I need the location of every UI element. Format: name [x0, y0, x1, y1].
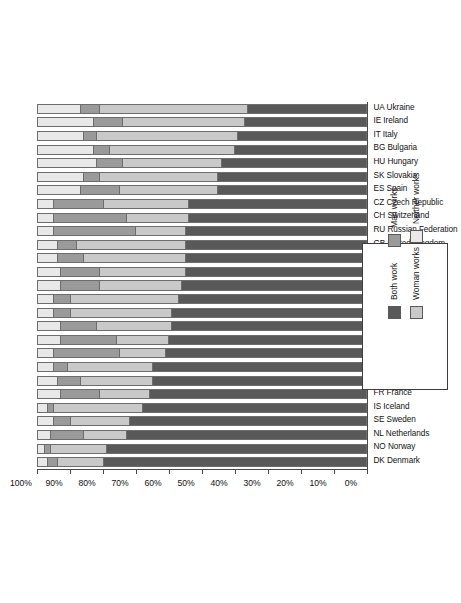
segment-woman: [97, 132, 238, 140]
segment-woman: [136, 227, 185, 235]
segment-neither: [38, 159, 97, 167]
segment-both: [153, 363, 366, 371]
bar-ru: [37, 226, 367, 236]
legend-item-man-works: Man works: [388, 187, 401, 247]
segment-both: [189, 200, 366, 208]
segment-man: [54, 214, 126, 222]
segment-man: [58, 254, 84, 262]
segment-both: [179, 295, 366, 303]
category-label: IT Italy: [374, 129, 398, 138]
segment-man: [58, 377, 81, 385]
bar-il: [37, 267, 367, 277]
segment-neither: [38, 363, 54, 371]
segment-both: [143, 404, 366, 412]
segment-both: [186, 268, 366, 276]
bar-ie: [37, 117, 367, 127]
chart-legend: Both work Man works Woman works Neither …: [362, 243, 448, 390]
segment-neither: [38, 254, 58, 262]
segment-both: [150, 390, 366, 398]
segment-neither: [38, 227, 54, 235]
legend-label-both-work: Both work: [389, 263, 399, 300]
axis-tick: [235, 469, 236, 474]
bar-be: [37, 376, 367, 386]
segment-both: [218, 173, 366, 181]
segment-woman: [84, 431, 127, 439]
axis-tick: [169, 469, 170, 474]
bar-dk: [37, 457, 367, 467]
axis-tick-label: 50%: [171, 478, 201, 488]
segment-neither: [38, 431, 51, 439]
segment-man: [54, 417, 70, 425]
category-label: IS Iceland: [374, 401, 410, 410]
segment-both: [222, 159, 366, 167]
legend-row: Both work Man works: [388, 192, 401, 319]
legend-swatch-woman-works: [410, 306, 423, 319]
segment-man: [61, 268, 100, 276]
legend-inner: Both work Man works Woman works Neither …: [363, 183, 447, 328]
segment-neither: [38, 118, 94, 126]
category-label: NL Netherlands: [374, 428, 430, 437]
segment-both: [189, 214, 366, 222]
segment-man: [48, 458, 58, 466]
legend-row: Woman works Neither works: [410, 192, 423, 319]
bar-it: [37, 131, 367, 141]
segment-neither: [38, 417, 54, 425]
legend-item-neither-works: Neither works: [410, 183, 423, 243]
segment-woman: [84, 254, 186, 262]
segment-man: [94, 146, 110, 154]
segment-both: [169, 336, 366, 344]
bar-ch: [37, 213, 367, 223]
segment-neither: [38, 295, 54, 303]
segment-man: [58, 241, 78, 249]
bar-fi: [37, 362, 367, 372]
segment-neither: [38, 390, 61, 398]
segment-neither: [38, 146, 94, 154]
axis-tick: [367, 469, 368, 474]
category-label: BG Bulgaria: [374, 143, 418, 152]
segment-man: [61, 390, 100, 398]
bar-fr: [37, 389, 367, 399]
axis-tick-label: 40%: [204, 478, 234, 488]
bar-sk: [37, 172, 367, 182]
segment-neither: [38, 377, 58, 385]
bar-is: [37, 403, 367, 413]
segment-woman: [100, 281, 182, 289]
segment-woman: [100, 173, 218, 181]
segment-both: [235, 146, 366, 154]
segment-neither: [38, 268, 61, 276]
segment-man: [51, 431, 84, 439]
segment-both: [238, 132, 366, 140]
segment-both: [130, 417, 366, 425]
segment-both: [248, 105, 366, 113]
segment-neither: [38, 322, 61, 330]
segment-woman: [68, 363, 153, 371]
segment-woman: [71, 417, 130, 425]
segment-man: [61, 322, 97, 330]
axis-tick-label: 100%: [6, 478, 36, 488]
bar-ee: [37, 280, 367, 290]
segment-both: [186, 241, 366, 249]
legend-item-woman-works: Woman works: [410, 259, 423, 319]
bar-es: [37, 185, 367, 195]
segment-woman: [100, 268, 185, 276]
segment-man: [54, 349, 120, 357]
axis-tick: [334, 469, 335, 474]
segment-woman: [100, 105, 248, 113]
legend-label-woman-works: Woman works: [411, 247, 421, 300]
segment-woman: [117, 336, 169, 344]
bar-pt: [37, 253, 367, 263]
chart-canvas: 0%10%20%30%40%50%60%70%80%90%100% DK Den…: [0, 0, 461, 603]
segment-neither: [38, 309, 54, 317]
segment-woman: [123, 159, 221, 167]
segment-man: [54, 200, 103, 208]
segment-man: [97, 159, 123, 167]
legend-swatch-man-works: [388, 234, 401, 247]
segment-both: [127, 431, 366, 439]
axis-tick: [103, 469, 104, 474]
segment-woman: [120, 349, 166, 357]
axis-tick: [202, 469, 203, 474]
segment-woman: [104, 200, 189, 208]
segment-woman: [127, 214, 189, 222]
segment-man: [94, 118, 124, 126]
segment-woman: [51, 445, 107, 453]
